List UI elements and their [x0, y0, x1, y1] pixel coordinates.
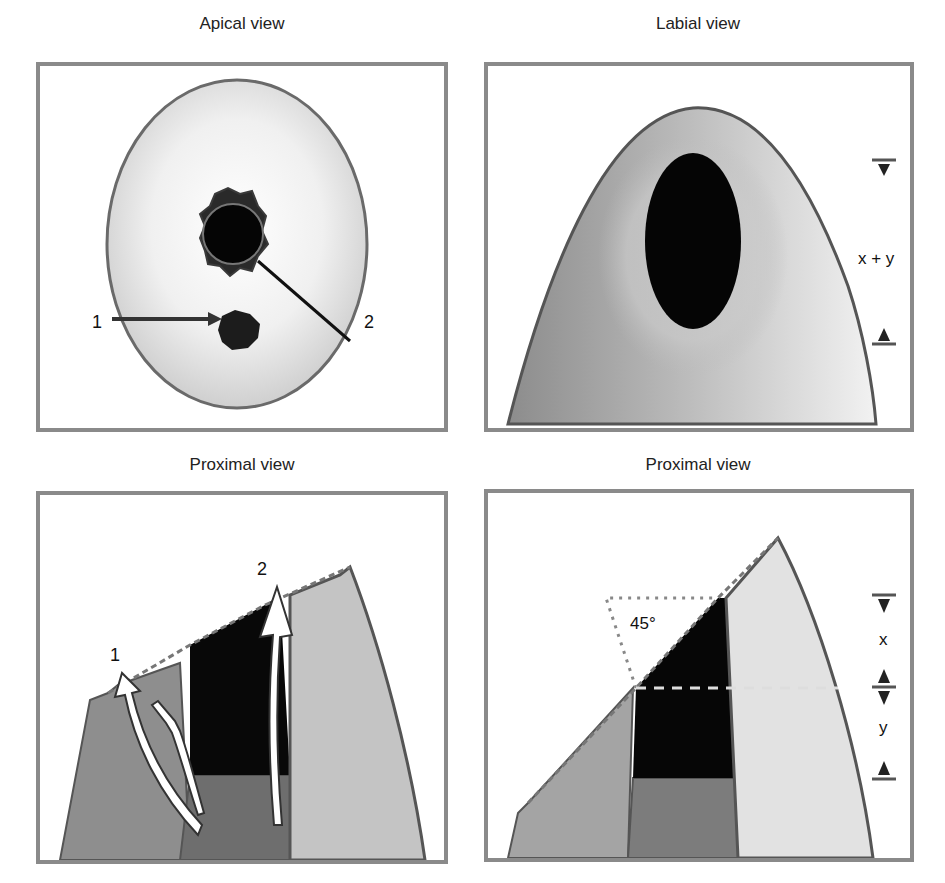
labial-diagram: x + y [488, 66, 910, 428]
angle-label: 45° [630, 614, 656, 633]
section-right [726, 538, 873, 858]
label-2: 2 [364, 312, 374, 332]
panel-title-proximal-left: Proximal view [92, 455, 392, 475]
dimension-marker-x-y [872, 595, 896, 779]
section-right [290, 567, 425, 860]
panel-title-apical: Apical view [92, 14, 392, 34]
section-middle-lower [628, 778, 741, 858]
panel-labial-view: x + y [484, 62, 914, 432]
panel-proximal-view-arrows: 1 2 [36, 491, 448, 864]
dimension-label-y: y [879, 718, 888, 737]
panel-apical-view: 1 2 [36, 62, 448, 432]
dimension-label-x-plus-y: x + y [858, 249, 895, 268]
proximal-arrows-diagram: 1 2 [40, 495, 444, 860]
arrow-label-2: 2 [257, 559, 267, 579]
label-1: 1 [92, 312, 102, 332]
panel-proximal-view-angle: 45° x y [484, 489, 914, 862]
apical-diagram: 1 2 [40, 66, 444, 428]
panel-title-proximal-right: Proximal view [548, 455, 848, 475]
panel-title-labial: Labial view [548, 14, 848, 34]
lesion-oval [645, 153, 741, 329]
proximal-angle-diagram: 45° x y [488, 493, 910, 858]
arrow-label-1: 1 [110, 645, 120, 665]
dimension-label-x: x [879, 630, 888, 649]
section-left [508, 688, 633, 858]
